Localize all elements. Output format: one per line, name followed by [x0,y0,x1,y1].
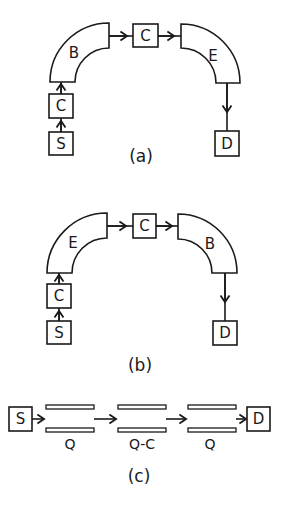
detector-label: D [221,135,233,153]
corrector-mid-label: C [140,27,150,45]
detector-label: D [219,324,231,342]
source-label: S [54,324,64,342]
lens-1-top-plate [46,405,94,409]
source-label: S [16,410,26,428]
bend-magnet-b [50,23,109,82]
bend-e-label: E [208,47,217,65]
corrector-mid-label: C [139,217,149,235]
lens-2-bottom-plate [118,428,166,432]
lens-3-bottom-plate [188,428,236,432]
diagram-canvas: B C E C S D (a) E C [0,0,284,507]
lens-3-top-plate [188,405,236,409]
source-label: S [56,135,66,153]
corrector-lower-label: C [54,287,64,305]
panel-b-caption: (b) [128,355,152,375]
lens-1-label: Q [64,436,75,452]
lens-2-top-plate [118,405,166,409]
panel-c: S Q Q-C Q D (c) [9,405,270,486]
bend-b-label: B [69,44,79,62]
lens-3-label: Q [204,436,215,452]
lens-1-bottom-plate [46,428,94,432]
corrector-lower-label: C [56,97,66,115]
panel-c-caption: (c) [128,466,151,486]
detector-label: D [253,410,265,428]
bend-b-label: B [205,235,215,253]
bend-e-label: E [68,234,77,252]
panel-b: E C B C S D (b) [47,213,237,375]
lens-2-label: Q-C [129,436,155,452]
panel-a: B C E C S D (a) [49,23,240,166]
panel-a-caption: (a) [129,146,153,166]
